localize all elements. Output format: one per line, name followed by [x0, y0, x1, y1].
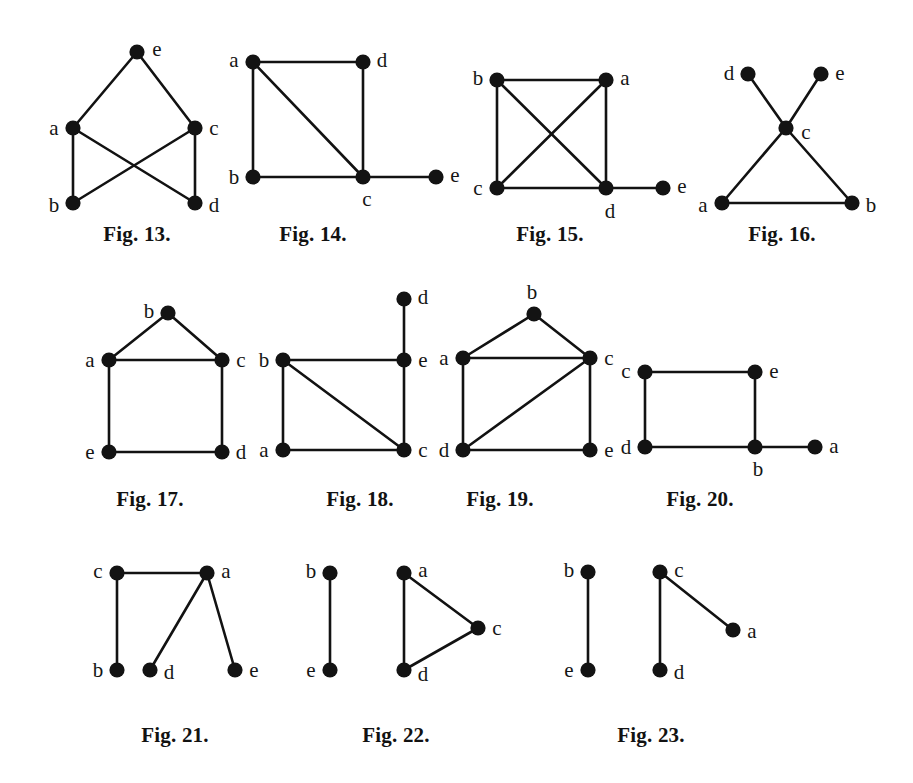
graph-edge: [150, 573, 207, 670]
graph-vertex: [526, 306, 541, 321]
graph-vertex: [396, 662, 411, 677]
fig-18: [275, 291, 411, 457]
vertex-label: b: [564, 560, 575, 581]
graph-vertex: [396, 291, 411, 306]
fig-23: [580, 564, 740, 677]
graph-edge: [168, 313, 222, 360]
graph-vertex: [275, 352, 290, 367]
vertex-label: e: [249, 660, 258, 681]
graph-vertex: [725, 622, 740, 637]
vertex-label: d: [724, 63, 735, 84]
vertex-label: c: [362, 189, 371, 210]
graph-edge: [253, 62, 363, 177]
vertex-label: b: [866, 195, 877, 216]
vertex-label: a: [620, 68, 629, 89]
graph-vertex: [214, 352, 229, 367]
vertex-label: b: [144, 301, 155, 322]
vertex-label: b: [473, 68, 484, 89]
figure-caption: Fig. 14.: [279, 224, 347, 245]
graph-vertex: [637, 364, 652, 379]
graph-edge: [463, 314, 534, 358]
graph-vertex: [740, 66, 755, 81]
graph-vertex: [245, 54, 260, 69]
graph-vertex: [187, 195, 202, 210]
graph-vertex: [813, 66, 828, 81]
vertex-label: e: [418, 350, 427, 371]
vertex-label: c: [236, 350, 245, 371]
graph-vertex: [396, 442, 411, 457]
vertex-label: c: [604, 348, 613, 369]
graph-vertex: [109, 662, 124, 677]
vertex-label: b: [259, 350, 270, 371]
graph-vertex: [598, 180, 613, 195]
vertex-label: a: [85, 350, 94, 371]
graph-vertex: [844, 195, 859, 210]
vertex-label: a: [747, 621, 756, 642]
graph-vertex: [455, 350, 470, 365]
vertex-label: e: [152, 39, 161, 60]
vertex-label: c: [674, 560, 683, 581]
graph-vertex: [187, 120, 202, 135]
figure-caption: Fig. 21.: [141, 725, 209, 746]
graph-vertex: [396, 352, 411, 367]
graph-vertex: [598, 72, 613, 87]
vertex-label: a: [698, 195, 707, 216]
graph-edge: [404, 628, 478, 670]
graph-vertex: [101, 352, 116, 367]
graph-vertex: [582, 350, 597, 365]
graph-vertex: [65, 195, 80, 210]
vertex-label: c: [209, 118, 218, 139]
vertex-label: e: [85, 442, 94, 463]
graph-vertex: [470, 620, 485, 635]
graph-vertex: [109, 565, 124, 580]
vertex-label: d: [418, 664, 429, 685]
vertex-label: b: [306, 561, 317, 582]
vertex-label: c: [93, 561, 102, 582]
graph-vertex: [489, 72, 504, 87]
vertex-label: c: [801, 122, 810, 143]
figure-caption: Fig. 19.: [466, 489, 534, 510]
fig-20: [637, 364, 822, 454]
figure-caption: Fig. 23.: [617, 725, 685, 746]
vertex-label: d: [377, 50, 388, 71]
graph-vertex: [655, 180, 670, 195]
graph-vertex: [355, 169, 370, 184]
graph-edge: [109, 313, 168, 360]
vertex-label: d: [605, 201, 616, 222]
fig-13: [65, 44, 202, 210]
vertex-label: e: [564, 660, 573, 681]
graph-vertex: [747, 364, 762, 379]
graph-vertex: [101, 444, 116, 459]
graph-vertex: [455, 442, 470, 457]
vertex-label: a: [229, 50, 238, 71]
graph-vertex: [652, 662, 667, 677]
vertex-label: b: [49, 195, 60, 216]
vertex-label: d: [621, 437, 632, 458]
vertex-label: e: [835, 63, 844, 84]
graph-vertex: [396, 565, 411, 580]
graph-vertex: [652, 564, 667, 579]
vertex-label: a: [259, 440, 268, 461]
graph-vertex: [747, 439, 762, 454]
vertex-label: b: [527, 282, 538, 303]
graph-vertex: [580, 662, 595, 677]
figure-caption: Fig. 18.: [326, 489, 394, 510]
vertex-label: c: [492, 618, 501, 639]
graph-edge: [534, 314, 590, 358]
figure-caption: Fig. 20.: [666, 489, 734, 510]
graph-vertex: [214, 444, 229, 459]
vertex-label: e: [306, 660, 315, 681]
vertex-label: d: [439, 440, 450, 461]
graph-vertex: [428, 169, 443, 184]
vertex-label: c: [621, 361, 630, 382]
graph-vertex: [355, 54, 370, 69]
graph-vertex: [322, 565, 337, 580]
fig-14: [245, 54, 443, 184]
vertex-label: d: [674, 662, 685, 683]
fig-22: [322, 565, 485, 677]
graph-vertex: [227, 662, 242, 677]
vertex-label: d: [209, 195, 220, 216]
vertex-label: a: [418, 560, 427, 581]
graph-edge: [207, 573, 235, 670]
graph-edge: [463, 358, 590, 450]
